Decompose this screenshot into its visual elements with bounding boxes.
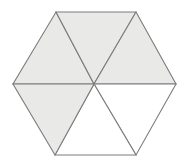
hexagon-figure [0,0,187,161]
figure-canvas [0,0,187,161]
triangle-group [13,12,176,155]
